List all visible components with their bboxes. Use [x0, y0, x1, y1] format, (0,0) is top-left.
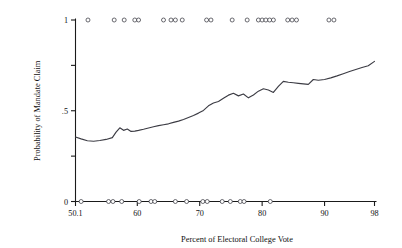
- series-line-group: [76, 61, 375, 141]
- chart-container: 0.51 50.16070809098 Percent of Electoral…: [0, 0, 402, 248]
- observation-dot: [79, 200, 83, 204]
- observation-dot: [169, 18, 173, 22]
- observation-dot: [220, 200, 224, 204]
- logistic-probability-chart: 0.51 50.16070809098 Percent of Electoral…: [0, 0, 402, 248]
- y-axis-tick-labels: 0.51: [62, 16, 68, 207]
- observation-dot: [228, 200, 232, 204]
- x-axis-title: Percent of Electoral College Vote: [181, 235, 293, 244]
- y-axis-title: Probability of Mandate Claim: [33, 60, 42, 161]
- observation-dot: [112, 18, 116, 22]
- x-tick-label: 50.1: [68, 209, 82, 218]
- observation-dot: [242, 200, 246, 204]
- x-axis-group: 50.16070809098: [68, 202, 378, 219]
- observation-dot: [286, 18, 290, 22]
- y-tick-label: 0: [64, 198, 68, 207]
- observation-dot: [180, 18, 184, 22]
- observation-dot: [122, 18, 126, 22]
- observation-dot: [111, 200, 115, 204]
- x-tick-label: 60: [133, 209, 141, 218]
- observation-dot: [137, 200, 141, 204]
- observation-dot: [162, 18, 166, 22]
- x-tick-label: 98: [370, 209, 378, 218]
- observation-dot: [205, 200, 209, 204]
- rug-marks-bottom: [79, 200, 272, 204]
- y-axis-group: 0.51: [62, 16, 76, 207]
- observation-dot: [173, 200, 177, 204]
- x-tick-label: 90: [320, 209, 328, 218]
- probability-curve: [76, 61, 375, 141]
- x-axis-tick-labels: 50.16070809098: [68, 209, 378, 218]
- observation-dot: [120, 200, 124, 204]
- observation-dot: [137, 18, 141, 22]
- observation-dot: [107, 200, 111, 204]
- y-axis-ticks: [71, 20, 76, 202]
- observation-dot: [230, 18, 234, 22]
- observation-dot: [294, 18, 298, 22]
- y-tick-label: 1: [64, 16, 68, 25]
- observation-dot: [173, 18, 177, 22]
- observation-dot: [290, 18, 294, 22]
- observation-dot: [185, 200, 189, 204]
- observation-dot: [201, 200, 205, 204]
- rug-marks-top: [86, 18, 336, 22]
- observation-dot: [271, 18, 275, 22]
- observation-dot: [245, 18, 249, 22]
- observation-dot: [205, 18, 209, 22]
- observation-dot: [327, 18, 331, 22]
- observation-dot: [332, 18, 336, 22]
- observation-dot: [86, 18, 90, 22]
- x-tick-label: 70: [196, 209, 204, 218]
- observation-dot: [209, 18, 213, 22]
- x-tick-label: 80: [258, 209, 266, 218]
- y-tick-label: .5: [62, 107, 68, 116]
- observation-dot: [268, 200, 272, 204]
- observation-dot: [153, 200, 157, 204]
